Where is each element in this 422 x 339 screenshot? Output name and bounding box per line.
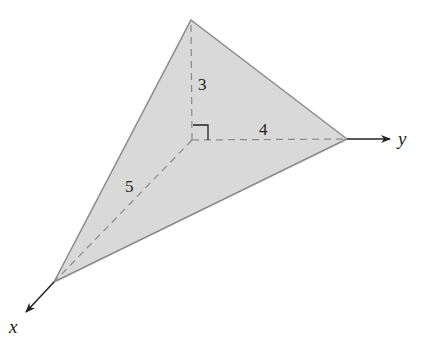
tetrahedron-diagram: 3 4 5 y x — [0, 0, 422, 339]
edge-label-diagonal: 5 — [125, 177, 134, 196]
diagram-canvas: 3 4 5 y x — [0, 0, 422, 339]
edge-label-horizontal: 4 — [259, 120, 268, 139]
y-axis-label: y — [396, 128, 407, 149]
x-axis-label: x — [8, 316, 18, 337]
x-axis-arrow — [26, 282, 54, 312]
edge-label-vertical: 3 — [198, 75, 207, 94]
front-face — [54, 20, 347, 282]
